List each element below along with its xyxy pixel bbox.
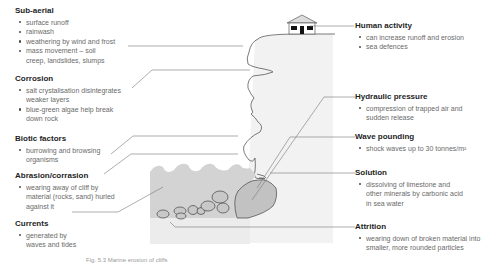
label-title: Corrosion — [15, 74, 140, 84]
bullet: surface runoff — [15, 18, 140, 28]
label-attrition: Attrition wearing down of broken materia… — [355, 222, 489, 253]
label-title: Currents — [15, 219, 95, 229]
label-title: Human activity — [355, 21, 485, 31]
label-corrosion: Corrosion salt crystalisation disintegra… — [15, 74, 140, 124]
label-title: Biotic factors — [15, 134, 125, 144]
label-hydraulic-pressure: Hydraulic pressure compression of trappe… — [355, 92, 485, 123]
figure-caption: Fig. 5.3 Marine erosion of cliffs — [86, 257, 168, 263]
bullet: compression of trapped air and sudden re… — [355, 104, 466, 123]
bullet: salt crystalisation disintegrates weaker… — [15, 86, 136, 105]
bullet: can increase runoff and erosion — [355, 33, 471, 43]
bullet: rainwash — [15, 27, 140, 37]
label-title: Attrition — [355, 222, 489, 232]
bullet: blue-green algae help break down rock — [15, 105, 126, 124]
beach-area — [150, 218, 250, 244]
label-currents: Currents generated by waves and tides — [15, 219, 95, 250]
bullet: generated by waves and tides — [15, 231, 86, 250]
bullet: wearing down of broken material into sma… — [355, 234, 489, 253]
label-human-activity: Human activity can increase runoff and e… — [355, 21, 485, 52]
bullet: shock waves up to 30 tonnes/m² — [355, 144, 489, 154]
label-wave-pounding: Wave pounding shock waves up to 30 tonne… — [355, 132, 489, 153]
label-title: Wave pounding — [355, 132, 489, 142]
label-sub-aerial: Sub-aerial surface runoff rainwash weath… — [15, 6, 140, 65]
label-title: Abrasion/corrasion — [15, 171, 125, 181]
label-title: Solution — [355, 168, 485, 178]
label-title: Hydraulic pressure — [355, 92, 485, 102]
bullet: mass movement – soil creep, landslides, … — [15, 46, 114, 65]
label-solution: Solution dissolving of limestone and oth… — [355, 168, 485, 208]
label-title: Sub-aerial — [15, 6, 140, 16]
bullet: burrowing and browsing organisms — [15, 146, 126, 165]
bullet: wearing away of cliff by material (rocks… — [15, 183, 122, 212]
label-biotic-factors: Biotic factors burrowing and browsing or… — [15, 134, 125, 165]
bullet: dissolving of limestone and other minera… — [355, 180, 466, 209]
house-icon — [287, 15, 317, 34]
label-abrasion-corrasion: Abrasion/corrasion wearing away of cliff… — [15, 171, 125, 211]
bullet: weathering by wind and frost — [15, 37, 140, 47]
bullet: sea defences — [355, 42, 485, 52]
